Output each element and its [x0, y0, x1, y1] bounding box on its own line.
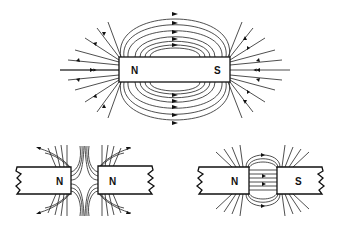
- pole-label-n-br: N: [231, 176, 238, 187]
- pole-label-s-br: S: [295, 176, 302, 187]
- magnet-right-n: [98, 166, 154, 194]
- magnetic-field-diagram: N S: [0, 0, 342, 235]
- panel-single-bar-magnet: N S: [60, 12, 290, 125]
- magnet-n: [197, 167, 249, 194]
- pole-label-n-right: N: [109, 176, 116, 187]
- panel-unlike-poles: N S: [197, 145, 324, 216]
- pole-label-n-left: N: [56, 176, 63, 187]
- panel-like-poles: N N: [16, 145, 154, 216]
- pole-label-s: S: [214, 65, 221, 76]
- field-lines-top: [120, 14, 229, 58]
- pole-label-n: N: [131, 65, 138, 76]
